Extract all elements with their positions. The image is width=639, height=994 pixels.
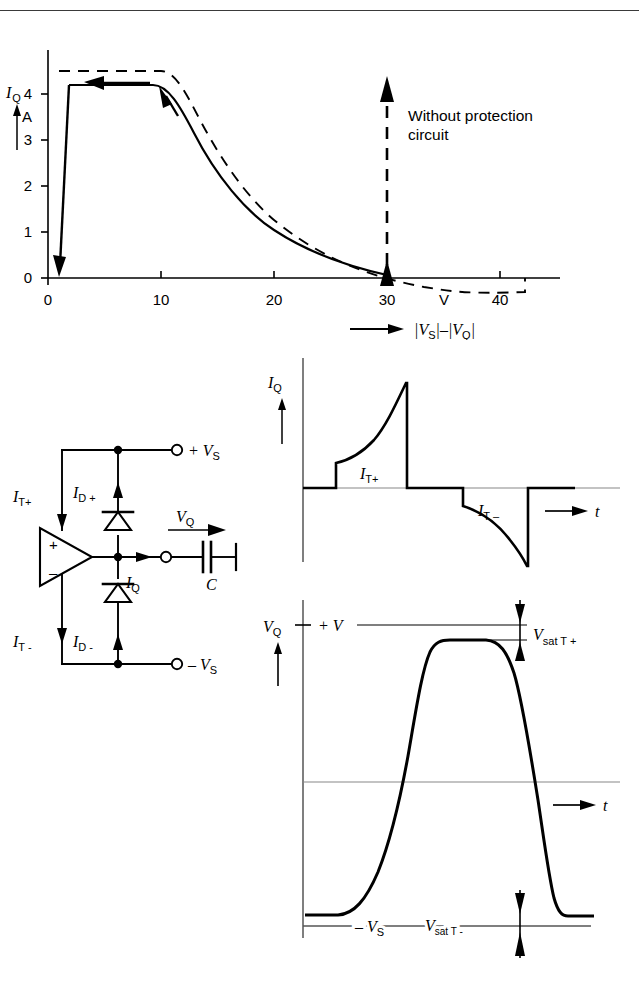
chart-xtick-10: 10 — [153, 291, 170, 308]
opamp-noninverting-input-label: + — [49, 536, 58, 553]
chart-output-current-vs-voltage: 0 1 2 3 4 A IQ 0 10 — [0, 30, 639, 340]
waveform-voltage-vsat-plus-marker — [515, 600, 525, 661]
waveform-current-plot: IQ IT+ IT – t — [250, 352, 639, 568]
waveform-current-label-negative: IT – — [477, 502, 500, 522]
figure-page: 0 1 2 3 4 A IQ 0 10 — [0, 0, 639, 994]
label-supply-negative: – VS — [187, 656, 217, 676]
label-current-d-neg: ID - — [72, 633, 93, 653]
svg-text:IQ: IQ — [267, 374, 282, 394]
waveform-voltage-y-label: VQ — [263, 618, 282, 686]
chart-xtick-0: 0 — [44, 291, 52, 308]
chart-ytick-0: 0 — [24, 269, 32, 286]
chart-y-unit: A — [22, 108, 32, 125]
waveform-current-y-label: IQ — [267, 374, 286, 444]
chart-ytick-3: 3 — [24, 131, 32, 148]
chart-curve-without-protection — [59, 71, 525, 293]
chart-ytick-2: 2 — [24, 177, 32, 194]
chart-without-protection-marker — [380, 76, 394, 286]
chart-ytick-4: 4 — [24, 85, 32, 102]
svg-text:VQ: VQ — [176, 508, 195, 528]
opamp-symbol — [40, 528, 92, 586]
opamp-inverting-input-label: – — [49, 564, 58, 581]
chart-ytick-1: 1 — [24, 223, 32, 240]
diode-positive — [105, 512, 131, 530]
chart-x-unit: V — [439, 291, 449, 308]
label-current-d-pos: ID + — [72, 484, 96, 504]
label-voltage-q-arrow: VQ — [168, 508, 226, 536]
svg-text:|VS|–|VQ|: |VS|–|VQ| — [414, 321, 475, 340]
chart-y-ticks — [41, 94, 48, 278]
svg-text:VQ: VQ — [263, 618, 282, 638]
waveform-voltage-x-label: t — [553, 797, 608, 814]
chart-curve-with-protection — [69, 85, 387, 275]
waveform-current-trace — [303, 383, 575, 566]
chart-plateau-flow-arrow — [84, 76, 150, 90]
without-protection-note-line1: Without protection — [408, 107, 533, 124]
label-supply-positive: + VS — [188, 442, 220, 462]
waveform-current-x-label: t — [545, 503, 600, 520]
chart-x-axis-title: |VS|–|VQ| — [350, 321, 475, 340]
waveform-voltage-vsat-minus-label: Vsat T - — [425, 917, 463, 937]
svg-text:t: t — [595, 503, 600, 520]
waveform-current-label-positive: IT+ — [359, 465, 378, 485]
label-current-t-neg: IT - — [12, 633, 32, 653]
without-protection-note-line2: circuit — [408, 126, 449, 143]
waveform-voltage-vsat-minus-marker — [515, 890, 525, 958]
label-current-t-pos: IT+ — [12, 488, 31, 508]
chart-rise-flow-arrow — [53, 85, 69, 277]
svg-text:IQ: IQ — [5, 84, 21, 104]
top-divider-rule — [0, 10, 639, 11]
svg-text:t: t — [603, 797, 608, 814]
chart-xtick-20: 20 — [266, 291, 283, 308]
waveform-voltage-trace — [305, 640, 594, 916]
chart-xtick-30: 30 — [379, 291, 396, 308]
waveform-voltage-minus-vs-label: – VS — [354, 918, 384, 938]
label-current-q: IQ — [125, 574, 140, 594]
waveform-voltage-plus-v-label: + V — [318, 617, 345, 634]
chart-y-axis-label: IQ — [5, 84, 21, 150]
waveform-voltage-plot: VQ + V Vsat T + — [250, 560, 639, 980]
waveform-voltage-vsat-plus-label: Vsat T + — [533, 626, 576, 647]
label-capacitor: C — [206, 576, 217, 593]
chart-ylabel-symbol: I — [5, 84, 12, 101]
